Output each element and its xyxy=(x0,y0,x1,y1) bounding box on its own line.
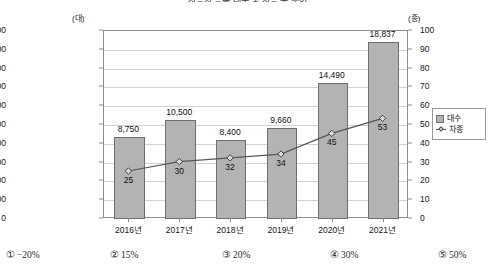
choice-1[interactable]: ①−20% xyxy=(6,249,40,260)
line-marker xyxy=(125,168,131,174)
chart-figure: (대) (종) 02,0004,0006,0008,00010,00012,00… xyxy=(0,0,495,238)
choice-4-text: 30% xyxy=(341,250,358,260)
choice-4-number: ④ xyxy=(330,250,339,260)
line-value-label: 34 xyxy=(276,158,285,168)
legend-item-bar: 대수 xyxy=(436,113,482,124)
chart-legend: 대수 차종 xyxy=(432,108,486,140)
choice-3-text: 20% xyxy=(233,250,250,260)
line-marker xyxy=(329,130,335,136)
choice-5[interactable]: ⑤50% xyxy=(438,249,466,260)
choice-1-text: −20% xyxy=(17,250,40,260)
line-value-label: 30 xyxy=(175,166,184,176)
bar-value-label: 10,500 xyxy=(166,107,192,117)
choice-5-number: ⑤ xyxy=(438,250,447,260)
answer-choices: ①−20% ②15% ③20% ④30% ⑤50% xyxy=(0,242,495,266)
line-value-label: 45 xyxy=(327,137,336,147)
bar-value-label: 8,400 xyxy=(219,127,240,137)
bar-value-label: 14,490 xyxy=(319,70,345,80)
line-marker xyxy=(227,155,233,161)
legend-label-line: 차종 xyxy=(449,124,463,135)
bar-value-label: 9,660 xyxy=(270,115,291,125)
choice-5-text: 50% xyxy=(449,250,466,260)
bar-value-label: 8,750 xyxy=(118,124,139,134)
legend-item-line: 차종 xyxy=(436,124,482,135)
choice-2[interactable]: ②15% xyxy=(110,249,138,260)
bar-value-label: 18,837 xyxy=(370,29,396,39)
choice-3-number: ③ xyxy=(222,250,231,260)
square-swatch-icon xyxy=(436,115,444,123)
choice-3[interactable]: ③20% xyxy=(222,249,250,260)
line-value-label: 53 xyxy=(378,122,387,132)
choice-2-text: 15% xyxy=(121,250,138,260)
choice-2-number: ② xyxy=(110,250,119,260)
line-value-label: 32 xyxy=(225,162,234,172)
diamond-marker-icon xyxy=(436,126,446,134)
line-series xyxy=(0,0,495,238)
line-value-label: 25 xyxy=(124,175,133,185)
line-marker xyxy=(176,158,182,164)
choice-1-number: ① xyxy=(6,250,15,260)
choice-4[interactable]: ④30% xyxy=(330,249,358,260)
line-marker xyxy=(278,151,284,157)
line-marker xyxy=(379,115,385,121)
legend-label-bar: 대수 xyxy=(447,113,461,124)
